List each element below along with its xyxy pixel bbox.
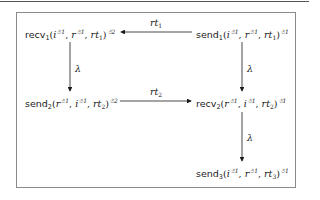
edge-label-lambda-right-1: λ <box>247 64 253 74</box>
edge-label-lambda-left: λ <box>75 64 81 74</box>
edge-label-lambda-right-2: λ <box>247 133 253 143</box>
edge-label-rt2: rt2 <box>150 87 162 100</box>
node-recv2: recv2(r☃1, i☃1, rt2)☃1 <box>196 95 286 113</box>
node-send1: send1(i☃1, r☃1, rt1)☃1 <box>196 26 289 44</box>
node-send2: send2(r☃1, i☃1, rt2)☃2 <box>25 95 118 113</box>
node-send3: send3(i☃1, r☃1, rt3)☃1 <box>196 165 289 183</box>
node-recv1: recv1(i☃1, r☃1, rt1)☃2 <box>25 26 115 44</box>
edge-label-rt1: rt1 <box>150 18 162 31</box>
